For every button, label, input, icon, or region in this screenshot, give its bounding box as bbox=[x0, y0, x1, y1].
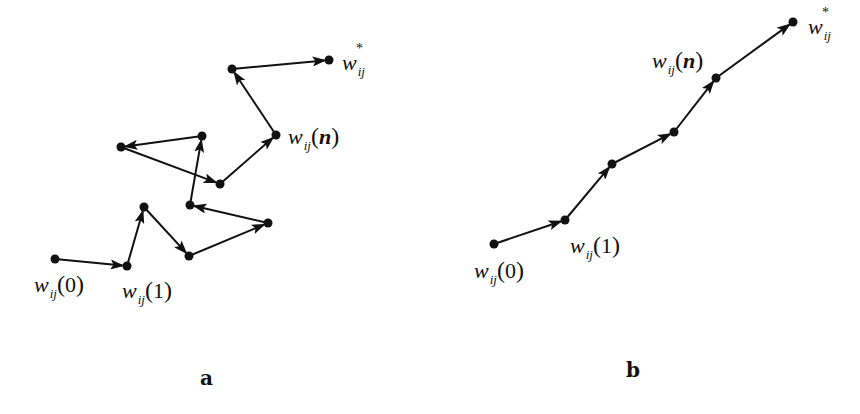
weight-node bbox=[712, 74, 721, 83]
trajectory-arrow bbox=[674, 82, 713, 132]
trajectory-arrow bbox=[494, 221, 561, 244]
trajectory-arrow bbox=[189, 225, 264, 256]
weight-node bbox=[789, 18, 798, 27]
trajectory-arrow bbox=[127, 211, 143, 266]
panel-b-trajectory-edges bbox=[494, 25, 789, 244]
weight-node bbox=[264, 219, 273, 228]
weight-node bbox=[186, 201, 195, 210]
weight-node bbox=[117, 143, 126, 152]
panel-a-label-w0: wij(0) bbox=[34, 272, 84, 296]
trajectory-arrow bbox=[234, 73, 276, 135]
panel-b-caption: b bbox=[626, 358, 640, 382]
trajectory-arrow bbox=[194, 206, 268, 223]
panel-a-label-wn: wij(n) bbox=[288, 124, 339, 148]
panel-a-caption: a bbox=[200, 366, 213, 390]
panel-a-trajectory-edges bbox=[55, 60, 325, 266]
weight-node bbox=[608, 160, 617, 169]
weight-node bbox=[272, 131, 281, 140]
trajectory-arrow bbox=[55, 259, 123, 266]
panel-a-trajectory-nodes bbox=[51, 56, 334, 271]
trajectory-arrow bbox=[121, 147, 216, 182]
weight-node bbox=[325, 56, 334, 65]
trajectory-arrow bbox=[612, 134, 670, 164]
weight-node bbox=[228, 65, 237, 74]
trajectory-arrow bbox=[716, 25, 789, 78]
panel-b-label-w1: wij(1) bbox=[570, 233, 620, 257]
weight-node bbox=[140, 203, 149, 212]
trajectory-arrow bbox=[144, 207, 186, 253]
panel-b-label-wstar: w*ij bbox=[808, 16, 831, 38]
weight-node bbox=[216, 180, 225, 189]
weight-node bbox=[123, 262, 132, 271]
panel-a-label-wstar: w*ij bbox=[342, 52, 365, 74]
weight-node bbox=[51, 255, 60, 264]
weight-trajectory-figure: wij(0) wij(1) wij(n) w*ij wij(0) wij(1) … bbox=[0, 0, 860, 414]
weight-node bbox=[561, 216, 570, 225]
panel-b-label-w0: wij(0) bbox=[474, 258, 524, 282]
trajectory-arrow bbox=[125, 136, 202, 146]
diagram-canvas bbox=[0, 0, 860, 414]
weight-node bbox=[670, 128, 679, 137]
trajectory-arrow bbox=[220, 138, 273, 184]
trajectory-arrow bbox=[565, 167, 609, 220]
weight-node bbox=[185, 252, 194, 261]
trajectory-arrow bbox=[232, 60, 325, 69]
panel-b-label-wn: wij(n) bbox=[652, 48, 703, 72]
weight-node bbox=[490, 240, 499, 249]
weight-node bbox=[198, 132, 207, 141]
panel-a-label-w1: wij(1) bbox=[122, 278, 172, 302]
